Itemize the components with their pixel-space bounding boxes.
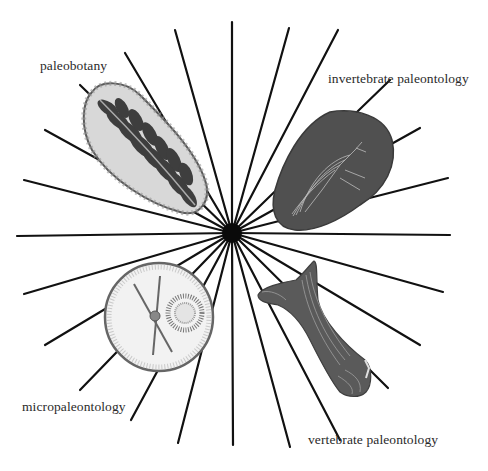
label-paleobotany: paleobotany xyxy=(40,58,107,74)
paleobotany-specimen xyxy=(84,83,207,213)
ray-line xyxy=(232,233,443,292)
label-invertebrate-paleontology: invertebrate paleontology xyxy=(328,71,469,87)
paleontology-diagram: paleobotany invertebrate paleontology mi… xyxy=(0,0,488,471)
label-vertebrate-paleontology: vertebrate paleontology xyxy=(308,432,438,448)
micropaleontology-specimen xyxy=(105,263,213,371)
ray-line xyxy=(232,233,233,445)
label-micropaleontology: micropaleontology xyxy=(22,399,126,415)
ray-line xyxy=(17,233,232,236)
ray-line xyxy=(232,233,290,447)
vertebrate-specimen xyxy=(258,261,371,397)
invertebrate-specimen xyxy=(273,111,393,230)
center-hub xyxy=(222,223,242,243)
ray-line xyxy=(232,233,450,235)
